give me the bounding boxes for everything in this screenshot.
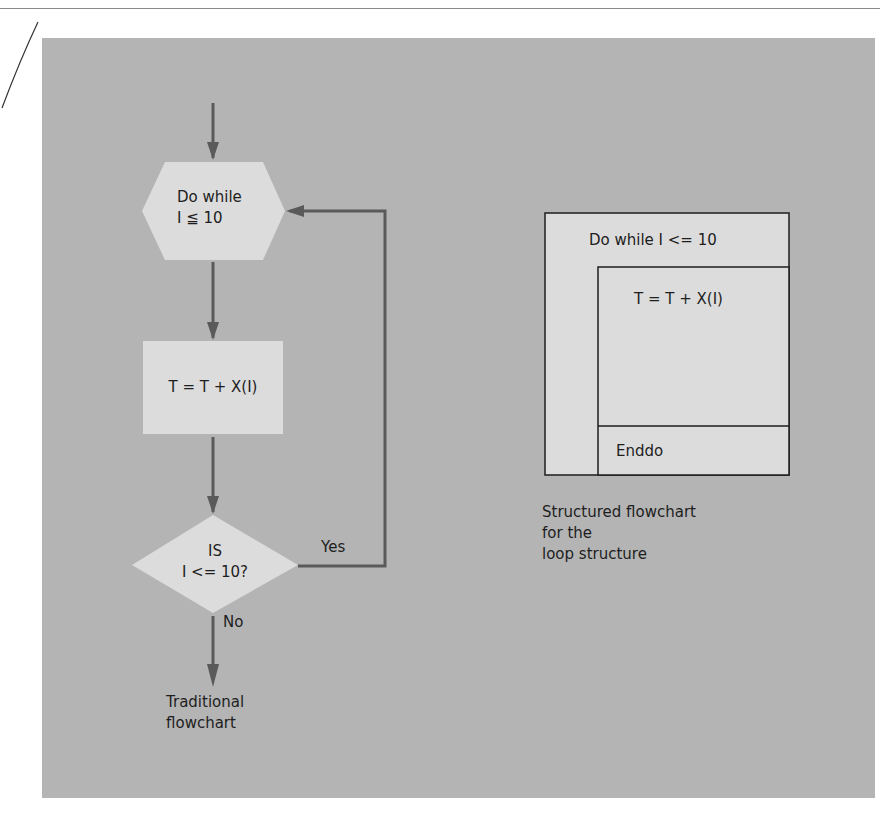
structured-body-label: T = T + X(I) [634, 289, 723, 310]
structured-header-label: Do while I <= 10 [589, 230, 717, 251]
decision-label: IS I <= 10? [182, 541, 248, 583]
hexagon-label-line1: Do while [177, 187, 242, 208]
decision-label-line2: I <= 10? [182, 562, 248, 583]
traditional-caption-line1: Traditional [166, 692, 244, 713]
structured-caption-line3: loop structure [542, 544, 696, 565]
structured-caption-line1: Structured flowchart [542, 502, 696, 523]
structured-caption-line2: for the [542, 523, 696, 544]
arrowhead-icon [207, 142, 219, 160]
traditional-caption-line2: flowchart [166, 713, 244, 734]
arrowhead-icon [286, 205, 304, 217]
arrowhead-icon [207, 496, 219, 514]
traditional-caption: Traditional flowchart [166, 692, 244, 734]
arrowhead-icon [207, 664, 219, 687]
arrowhead-icon [207, 322, 219, 340]
hexagon-label: Do while I ≦ 10 [177, 187, 242, 229]
yes-loop-line [290, 211, 385, 566]
no-label: No [223, 612, 243, 633]
process-label: T = T + X(I) [169, 377, 258, 398]
flowchart-diagram [0, 0, 891, 816]
structured-footer-label: Enddo [616, 441, 663, 462]
structured-flowchart [545, 213, 789, 475]
structured-caption: Structured flowchart for the loop struct… [542, 502, 696, 565]
hexagon-label-line2: I ≦ 10 [177, 208, 242, 229]
yes-label: Yes [321, 537, 345, 558]
decision-label-line1: IS [182, 541, 248, 562]
